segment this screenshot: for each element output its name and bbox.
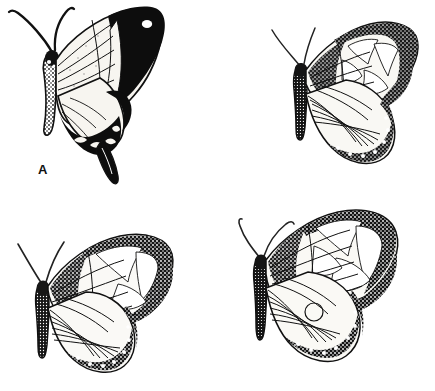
butterfly-illustration-c bbox=[0, 196, 217, 391]
butterfly-illustration-d bbox=[218, 196, 435, 391]
butterfly-illustration-b bbox=[218, 0, 435, 195]
butterfly-figure-plate: A bbox=[0, 0, 435, 391]
figure-panel-c: C bbox=[0, 196, 217, 391]
butterfly-illustration-a bbox=[0, 0, 217, 195]
eyespot-a bbox=[142, 20, 152, 28]
body-c bbox=[36, 281, 50, 359]
panel-label-a: A bbox=[38, 163, 48, 176]
figure-panel-a: A bbox=[0, 0, 217, 195]
figure-panel-d: D bbox=[218, 196, 435, 391]
figure-panel-b: B bbox=[218, 0, 435, 195]
